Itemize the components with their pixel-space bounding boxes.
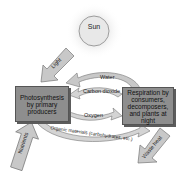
producers-label: Photosynthesis by primary producers xyxy=(16,94,68,115)
carbon-dioxide-label: Carbon dioxide xyxy=(83,88,120,94)
consumers-box: Respiration by consumers, decomposers, a… xyxy=(122,87,174,125)
oxygen-label: Oxygen xyxy=(84,112,103,118)
producers-box: Photosynthesis by primary producers xyxy=(15,86,69,122)
sun-label: Sun xyxy=(82,23,106,30)
sun-icon xyxy=(79,16,109,46)
consumers-label: Respiration by consumers, decomposers, a… xyxy=(123,89,173,124)
energy-cycle-diagram: Sun Water Carbon dioxide Oxygen Organic … xyxy=(0,0,186,176)
water-label: Water xyxy=(100,74,114,80)
